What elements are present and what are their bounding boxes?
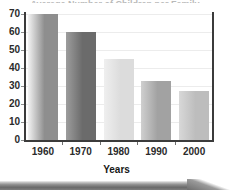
x-axis-tick-mark (137, 142, 138, 145)
y-axis-tick-label: 10 (0, 117, 20, 127)
x-axis-tick-label: 2000 (174, 146, 214, 157)
page-corner-curl (187, 179, 233, 190)
x-axis-tick-mark (100, 142, 101, 145)
x-axis-label: Years (0, 164, 233, 175)
x-axis-tick-mark (62, 142, 63, 145)
x-axis-tick-label: 1990 (136, 146, 176, 157)
bar (66, 32, 96, 140)
chart-title-clipped: Average Number of Children per Family (22, 0, 208, 3)
x-axis-tick-label: 1960 (23, 146, 63, 157)
bar-chart-figure: Average Number of Children per Family 01… (0, 0, 233, 190)
bar (28, 14, 58, 140)
bar (179, 91, 209, 140)
y-axis-tick-label: 0 (0, 135, 20, 145)
bar (104, 59, 134, 140)
y-axis-tick-label: 70 (0, 9, 20, 19)
x-axis-tick-mark (175, 142, 176, 145)
y-axis-tick-label: 30 (0, 81, 20, 91)
y-axis-tick-label: 60 (0, 27, 20, 37)
bar (141, 81, 171, 140)
y-axis-tick-label: 40 (0, 63, 20, 73)
x-axis-tick-label: 1980 (99, 146, 139, 157)
y-axis-tick-label: 20 (0, 99, 20, 109)
x-axis-line (24, 140, 214, 142)
plot-area (24, 14, 214, 140)
y-axis-tick-label: 50 (0, 45, 20, 55)
x-axis-tick-label: 1970 (61, 146, 101, 157)
